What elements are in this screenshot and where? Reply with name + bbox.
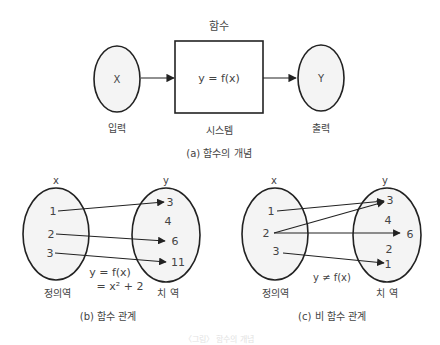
domain-value: 3 <box>273 245 280 258</box>
range-label: 치 역 <box>376 288 397 299</box>
domain-value: 1 <box>50 205 57 218</box>
panel-a-function-concept: 함수 X y = f(x) Y 입력 시스템 출력 (a) 함수의 개념 <box>94 20 344 159</box>
system-formula: y = f(x) <box>198 72 240 85</box>
input-symbol: X <box>114 74 121 85</box>
formula-line1: y = f(x) <box>89 266 131 279</box>
panel-b-caption: (b) 함수 관계 <box>80 311 137 322</box>
output-symbol: Y <box>317 73 325 84</box>
domain-header: x <box>53 175 59 186</box>
panel-c-caption: (c) 비 함수 관계 <box>298 311 366 322</box>
range-value: 11 <box>171 256 185 269</box>
domain-ellipse <box>242 188 308 280</box>
output-label: 출력 <box>312 123 330 134</box>
domain-label: 정의역 <box>44 288 71 299</box>
panel-c-non-function-relation: x y 1 2 3 3 4 6 2 1 y ≠ f(x) 정의역 치 역 (c)… <box>242 175 421 322</box>
panel-b-function-relation: x y 1 2 3 3 4 6 11 y = f(x) = x² + 2 정의역… <box>23 175 200 322</box>
range-value: 4 <box>165 215 172 228</box>
system-label: 시스템 <box>206 125 233 136</box>
range-value: 6 <box>172 235 179 248</box>
range-value: 4 <box>385 214 392 227</box>
domain-value: 3 <box>47 247 54 260</box>
domain-label: 정의역 <box>262 288 289 299</box>
panel-a-title: 함수 <box>209 20 229 33</box>
domain-value: 1 <box>268 205 275 218</box>
function-diagram: 함수 X y = f(x) Y 입력 시스템 출력 (a) 함수의 개념 x y… <box>0 0 440 345</box>
range-header: y <box>163 175 169 186</box>
domain-value: 2 <box>48 228 55 241</box>
formula-line2: = x² + 2 <box>97 280 144 293</box>
domain-value: 2 <box>263 227 270 240</box>
range-label: 치 역 <box>157 288 178 299</box>
range-value: 6 <box>407 228 414 241</box>
range-value: 3 <box>387 194 394 207</box>
panel-a-caption: (a) 함수의 개념 <box>186 148 251 159</box>
input-label: 입력 <box>108 122 126 134</box>
range-value: 3 <box>167 196 174 209</box>
range-value: 2 <box>386 243 393 256</box>
non-function-formula: y ≠ f(x) <box>313 272 351 283</box>
faint-footer-caption: 〈그림〉 함수의 개념 <box>184 334 254 344</box>
range-value: 1 <box>385 258 392 271</box>
range-header: y <box>382 175 388 186</box>
domain-header: x <box>271 175 277 186</box>
